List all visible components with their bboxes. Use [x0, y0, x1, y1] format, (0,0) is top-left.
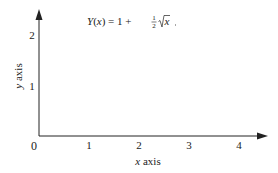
annotation-lhs: Y(x) = 1 + — [87, 15, 132, 28]
annotation-sqrt-arg: x — [164, 15, 170, 27]
y-tick-label-2: 2 — [29, 29, 35, 41]
x-axis-arrow-icon — [257, 133, 268, 140]
annotation-frac-num: 1 — [152, 14, 156, 22]
curve-annotation: Y(x) = 1 + 1 2 x — [87, 14, 179, 30]
x-tick-label-3: 3 — [186, 139, 192, 151]
x-tick-label-2: 2 — [136, 139, 142, 151]
mesh-figure: 0 1 2 3 4 1 2 x axis y axis Y(x) = 1 + 1… — [0, 0, 278, 173]
x-tick-label-1: 1 — [86, 139, 92, 151]
y-tick-label-1: 1 — [29, 80, 35, 92]
x-tick-label-0: 0 — [31, 139, 37, 153]
y-axis-label: y axis — [12, 63, 24, 89]
annotation-frac-den: 2 — [152, 22, 156, 30]
x-axis-label: x axis — [134, 155, 160, 167]
x-tick-label-4: 4 — [236, 139, 242, 151]
y-axis-arrow-icon — [36, 9, 43, 20]
